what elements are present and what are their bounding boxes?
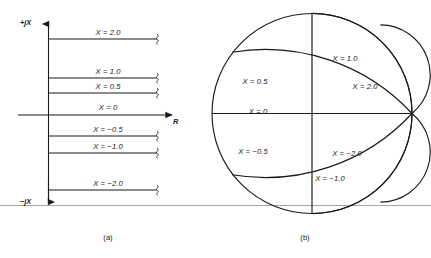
panel-b-group bbox=[212, 13, 430, 213]
break-squiggle-icon bbox=[156, 131, 158, 141]
break-squiggle-icon bbox=[156, 88, 158, 98]
smith-arc-x-neg-0-5 bbox=[232, 114, 412, 178]
panel-a-axis-bottom-label: −jX bbox=[20, 197, 31, 206]
figure-root: +jX −jX R X = 2.0 X = 1.0 X = 0.5 X = 0 … bbox=[0, 0, 431, 258]
panel-b-label-x-neg-1: X = −1.0 bbox=[315, 175, 345, 183]
figure-canvas bbox=[0, 0, 431, 258]
panel-b-label-x-neg-0-5: X = −0.5 bbox=[238, 148, 268, 156]
break-squiggle-icon bbox=[156, 73, 158, 83]
break-squiggle-icon bbox=[156, 34, 158, 44]
panel-a-caption: (a) bbox=[103, 233, 112, 242]
smith-arc-x-neg-2 bbox=[380, 114, 430, 203]
panel-b-label-x-0-5: X = 0.5 bbox=[243, 78, 268, 86]
panel-a-label-x-1: X = 1.0 bbox=[96, 68, 121, 76]
panel-b-label-x-2: X = 2.0 bbox=[353, 83, 378, 91]
panel-a-axis-right-label: R bbox=[173, 117, 178, 126]
panel-a-label-x-2: X = 2.0 bbox=[96, 29, 121, 37]
panel-b-label-x-1: X = 1.0 bbox=[333, 55, 358, 63]
panel-a-label-x-neg-0-5: X = −0.5 bbox=[93, 126, 123, 134]
panel-b-caption: (b) bbox=[300, 233, 309, 242]
break-squiggle-icon bbox=[156, 148, 158, 158]
panel-b-label-x-0: X = 0 bbox=[249, 108, 267, 116]
panel-b-label-x-neg-2: X = −2.0 bbox=[332, 150, 362, 158]
panel-a-axis-top-label: +jX bbox=[20, 18, 31, 27]
break-squiggle-icon bbox=[156, 185, 158, 195]
panel-a-label-x-neg-1: X = −1.0 bbox=[93, 143, 123, 151]
panel-a-group bbox=[18, 24, 172, 202]
panel-a-label-x-0: X = 0 bbox=[99, 104, 117, 112]
panel-a-label-x-neg-2: X = −2.0 bbox=[93, 180, 123, 188]
smith-arc-x-2 bbox=[380, 25, 430, 114]
panel-a-label-x-0-5: X = 0.5 bbox=[96, 83, 121, 91]
